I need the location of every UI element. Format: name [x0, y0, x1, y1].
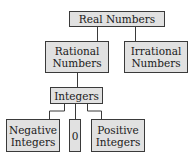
node-real-numbers: Real Numbers [69, 11, 165, 27]
node-zero: 0 [69, 119, 81, 152]
node-label: 0 [72, 130, 79, 142]
node-label: Real Numbers [79, 13, 155, 25]
node-label: Positive Integers [95, 124, 141, 148]
node-irrational-numbers: Irrational Numbers [124, 41, 188, 73]
node-integers: Integers [50, 87, 103, 104]
node-label: Negative Integers [9, 124, 57, 148]
node-rational-numbers: Rational Numbers [45, 41, 109, 73]
real-numbers-hierarchy-diagram: Real Numbers Rational Numbers Irrational… [0, 0, 194, 165]
node-positive-integers: Positive Integers [91, 119, 145, 152]
node-negative-integers: Negative Integers [6, 119, 60, 152]
node-label: Rational Numbers [52, 45, 102, 69]
node-label: Integers [54, 90, 99, 102]
node-label: Irrational Numbers [131, 45, 182, 69]
